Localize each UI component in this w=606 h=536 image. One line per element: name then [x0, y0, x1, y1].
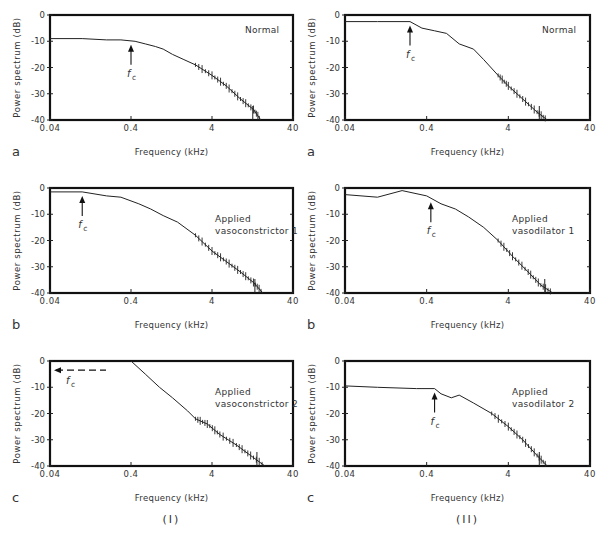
- y-tick-label: -20: [31, 236, 45, 246]
- plot-frame: [50, 361, 293, 466]
- x-tick-label: 4: [505, 296, 511, 306]
- y-tick-label: -10: [31, 36, 45, 46]
- x-tick-label: 0.04: [40, 296, 61, 306]
- svg-text:vasodilator 2: vasodilator 2: [512, 399, 575, 409]
- spectrum-curve: [345, 191, 553, 293]
- column-label-1: (I): [163, 513, 181, 526]
- y-tick-label: -30: [31, 89, 45, 99]
- svg-text:c: c: [436, 421, 440, 430]
- figure: 0-10-20-30-40Power spectrum (dB)0.040.44…: [0, 0, 606, 536]
- y-tick-label: -30: [31, 435, 45, 445]
- x-tick-label: 0.4: [419, 469, 434, 479]
- svg-text:Normal: Normal: [542, 25, 576, 35]
- y-tick-label: -20: [326, 409, 340, 419]
- svg-text:c: c: [83, 224, 87, 233]
- svg-text:vasoconstrictor 2: vasoconstrictor 2: [215, 399, 298, 409]
- x-axis-title: Frequency (kHz): [431, 147, 505, 157]
- y-axis-title: Power spectrum (dB): [12, 17, 22, 118]
- panel-annotation: Appliedvasodilator 1: [512, 214, 575, 236]
- y-tick-label: -20: [326, 63, 340, 73]
- x-axis-title: Frequency (kHz): [135, 147, 209, 157]
- svg-text:c: c: [432, 230, 436, 239]
- chart-panel-I-b: 0-10-20-30-40Power spectrum (dB)0.040.44…: [12, 183, 299, 332]
- panel-letter: b: [12, 317, 20, 332]
- y-axis-title: Power spectrum (dB): [307, 190, 317, 291]
- y-axis-title: Power spectrum (dB): [12, 363, 22, 464]
- panel-annotation: Normal: [542, 25, 576, 35]
- y-axis: 0-10-20-30-40Power spectrum (dB): [307, 356, 590, 471]
- svg-text:c: c: [411, 54, 415, 63]
- y-tick-label: -10: [31, 382, 45, 392]
- plot-frame: [345, 188, 590, 293]
- y-tick-label: -20: [326, 236, 340, 246]
- x-axis-title: Frequency (kHz): [431, 493, 505, 503]
- chart-panel-I-a: 0-10-20-30-40Power spectrum (dB)0.040.44…: [12, 10, 299, 159]
- x-tick-label: 0.4: [419, 123, 434, 133]
- y-tick-label: -30: [326, 262, 340, 272]
- panel-letter: b: [307, 317, 315, 332]
- chart-panel-II-c: 0-10-20-30-40Power spectrum (dB)0.040.44…: [307, 356, 596, 505]
- plot-frame: [50, 188, 293, 293]
- x-tick-label: 0.4: [419, 296, 434, 306]
- y-axis-title: Power spectrum (dB): [307, 17, 317, 118]
- x-axis: 0.040.4440Frequency (kHz): [335, 462, 596, 503]
- panel-letter: a: [12, 144, 20, 159]
- x-tick-label: 0.04: [335, 296, 356, 306]
- cutoff-arrow-left-icon: fc: [54, 367, 106, 389]
- x-axis-title: Frequency (kHz): [135, 320, 209, 330]
- y-axis: 0-10-20-30-40Power spectrum (dB): [307, 183, 590, 298]
- chart-panel-II-a: 0-10-20-30-40Power spectrum (dB)0.040.44…: [307, 10, 596, 159]
- y-tick-label: -10: [326, 209, 340, 219]
- svg-text:Applied: Applied: [512, 387, 548, 397]
- panel-annotation: Normal: [245, 25, 279, 35]
- y-tick-label: -30: [31, 262, 45, 272]
- spectrum-curve: [345, 386, 547, 466]
- svg-text:c: c: [132, 73, 136, 82]
- y-tick-label: 0: [40, 10, 45, 20]
- x-tick-label: 40: [287, 123, 299, 133]
- x-tick-label: 0.04: [40, 123, 61, 133]
- y-axis-title: Power spectrum (dB): [307, 363, 317, 464]
- x-tick-label: 0.04: [335, 123, 356, 133]
- x-axis: 0.040.4440Frequency (kHz): [40, 462, 299, 503]
- x-axis: 0.040.4440Frequency (kHz): [40, 289, 299, 330]
- svg-text:vasoconstrictor 1: vasoconstrictor 1: [215, 226, 298, 236]
- x-tick-label: 4: [209, 469, 215, 479]
- spectrum-curve: [50, 39, 261, 120]
- x-tick-label: 40: [584, 123, 596, 133]
- x-tick-label: 4: [505, 123, 511, 133]
- x-tick-label: 0.4: [123, 123, 138, 133]
- x-axis: 0.040.4440Frequency (kHz): [335, 116, 596, 157]
- y-tick-label: -20: [31, 409, 45, 419]
- y-tick-label: 0: [335, 183, 340, 193]
- y-tick-label: -10: [31, 209, 45, 219]
- cutoff-arrow-up-icon: fc: [127, 45, 136, 82]
- y-tick-label: -20: [31, 63, 45, 73]
- cutoff-arrow-up-icon: fc: [427, 202, 436, 239]
- x-tick-label: 40: [287, 296, 299, 306]
- plot-frame: [345, 361, 590, 466]
- panel-annotation: Appliedvasodilator 2: [512, 387, 575, 409]
- svg-text:vasodilator 1: vasodilator 1: [512, 226, 575, 236]
- panel-letter: c: [307, 490, 314, 505]
- x-tick-label: 40: [287, 469, 299, 479]
- y-tick-label: -30: [326, 89, 340, 99]
- y-tick-label: 0: [335, 10, 340, 20]
- y-tick-label: -30: [326, 435, 340, 445]
- y-tick-label: 0: [40, 356, 45, 366]
- panel-annotation: Appliedvasoconstrictor 2: [215, 387, 298, 409]
- x-tick-label: 0.04: [335, 469, 356, 479]
- y-tick-label: -10: [326, 36, 340, 46]
- x-tick-label: 4: [505, 469, 511, 479]
- y-tick-label: -10: [326, 382, 340, 392]
- x-axis: 0.040.4440Frequency (kHz): [40, 116, 299, 157]
- chart-panel-II-b: 0-10-20-30-40Power spectrum (dB)0.040.44…: [307, 183, 596, 332]
- x-axis: 0.040.4440Frequency (kHz): [335, 289, 596, 330]
- x-tick-label: 40: [584, 296, 596, 306]
- panel-letter: c: [12, 490, 19, 505]
- x-tick-label: 40: [584, 469, 596, 479]
- figure-canvas: 0-10-20-30-40Power spectrum (dB)0.040.44…: [0, 0, 606, 536]
- y-tick-label: 0: [40, 183, 45, 193]
- spectrum-curve: [345, 22, 547, 120]
- x-tick-label: 0.4: [123, 469, 138, 479]
